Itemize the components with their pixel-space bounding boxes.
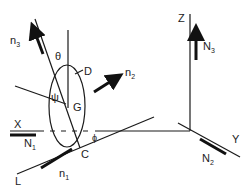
n1-arrow (41, 149, 72, 168)
label-g: G (73, 101, 82, 113)
n3-arrow (34, 30, 43, 54)
label-n1: n1 (59, 167, 69, 181)
label-z: Z (178, 12, 185, 24)
label-n2: n2 (125, 66, 135, 80)
label-n3-reaction: N3 (203, 40, 215, 54)
label-n1-reaction: N1 (24, 137, 36, 151)
label-n3: n3 (10, 34, 20, 48)
label-theta: θ (55, 50, 61, 62)
label-l: L (15, 175, 21, 187)
label-c: C (81, 148, 89, 160)
n2-arrow (94, 78, 116, 92)
label-y: Y (232, 133, 240, 145)
label-x: X (14, 118, 22, 130)
label-d: D (84, 65, 92, 77)
label-phi: ϕ (92, 133, 97, 143)
label-n2-reaction: N2 (202, 152, 214, 166)
symmetry-axis-n3 (35, 19, 80, 148)
label-psi: ψ (51, 91, 59, 103)
contact-line-l (17, 117, 154, 174)
rolling-disk-diagram: n3 θ D n2 ψ G X N1 ϕ C L n1 Z N3 Y N2 (0, 0, 250, 189)
diagram-canvas: n3 θ D n2 ψ G X N1 ϕ C L n1 Z N3 Y N2 (0, 0, 250, 189)
